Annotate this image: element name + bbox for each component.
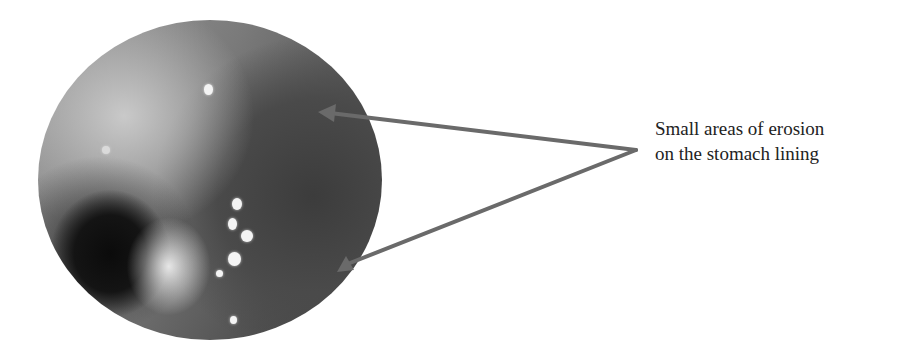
figure: Small areas of erosion on the stomach li…: [0, 0, 915, 349]
annotation-label: Small areas of erosion on the stomach li…: [655, 116, 905, 166]
label-line-1: Small areas of erosion: [655, 116, 905, 141]
label-line-2: on the stomach lining: [655, 141, 905, 166]
arrow-lower: [345, 150, 636, 265]
arrow-upper: [330, 113, 636, 150]
arrowhead-upper-icon: [318, 104, 336, 122]
pointer-arrows: [0, 0, 915, 349]
